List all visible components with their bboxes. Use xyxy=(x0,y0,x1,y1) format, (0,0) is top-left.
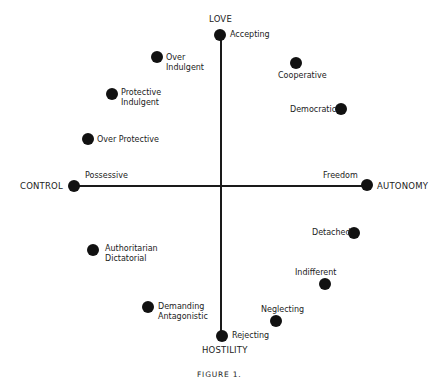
label-over-indulgent-line2: Indulgent xyxy=(166,63,204,73)
label-demanding-antagonistic: Demanding Antagonistic xyxy=(158,302,208,322)
dot-democratic xyxy=(335,103,347,115)
label-detached: Detached xyxy=(312,228,351,238)
label-possessive: Possessive xyxy=(85,171,128,181)
dot-indifferent xyxy=(319,278,331,290)
dot-rejecting xyxy=(216,330,228,342)
label-freedom: Freedom xyxy=(323,171,358,181)
label-authoritarian-dictatorial: Authoritarian Dictatorial xyxy=(105,244,158,264)
pole-autonomy: AUTONOMY xyxy=(377,181,428,191)
label-antagonistic-line2: Antagonistic xyxy=(158,312,208,322)
label-over-indulgent: Over Indulgent xyxy=(166,53,204,73)
label-neglecting: Neglecting xyxy=(261,305,304,315)
label-rejecting: Rejecting xyxy=(232,331,269,341)
dot-freedom xyxy=(361,179,373,191)
label-democratic: Democratic xyxy=(290,105,336,115)
label-indifferent: Indifferent xyxy=(295,268,336,278)
label-over-indulgent-line1: Over xyxy=(166,53,204,63)
dot-protective-indulgent xyxy=(106,88,118,100)
label-dictatorial-line2: Dictatorial xyxy=(105,254,158,264)
pole-hostility: HOSTILITY xyxy=(202,345,248,355)
horizontal-axis-control-autonomy xyxy=(74,185,367,187)
label-cooperative: Cooperative xyxy=(278,71,327,81)
pole-love: LOVE xyxy=(209,14,232,24)
dot-cooperative xyxy=(290,57,302,69)
pole-control: CONTROL xyxy=(20,181,63,191)
label-demanding-line1: Demanding xyxy=(158,302,208,312)
dot-neglecting xyxy=(270,315,282,327)
dot-authoritarian-dictatorial xyxy=(87,244,99,256)
dot-demanding-antagonistic xyxy=(142,301,154,313)
dot-over-protective xyxy=(82,133,94,145)
label-protective-indulgent-line1: Protective xyxy=(121,88,161,98)
dot-accepting xyxy=(214,29,226,41)
label-over-protective: Over Protective xyxy=(97,135,159,145)
label-authoritarian-line1: Authoritarian xyxy=(105,244,158,254)
dot-possessive xyxy=(68,180,80,192)
label-accepting: Accepting xyxy=(230,30,270,40)
dot-over-indulgent xyxy=(151,51,163,63)
label-protective-indulgent-line2: Indulgent xyxy=(121,98,161,108)
figure-caption: FIGURE 1. xyxy=(197,370,242,379)
label-protective-indulgent: Protective Indulgent xyxy=(121,88,161,108)
